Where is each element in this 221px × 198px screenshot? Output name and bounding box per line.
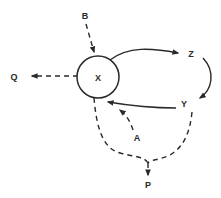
edge-y-to-x <box>108 102 176 108</box>
edge-a-to-x <box>120 110 133 130</box>
node-b-label: B <box>82 11 89 21</box>
node-z-label: Z <box>188 49 194 59</box>
node-q-label: Q <box>10 72 17 82</box>
node-p-label: P <box>145 180 151 190</box>
edge-x-to-z <box>110 49 178 60</box>
flow-diagram: X B Q Z Y A P <box>0 0 221 198</box>
edge-x-to-junction <box>94 98 148 163</box>
edge-b-to-x <box>86 24 94 52</box>
edge-y-to-junction <box>148 112 192 163</box>
node-y-label: Y <box>181 99 187 109</box>
node-a-label: A <box>134 133 141 143</box>
edge-z-to-y <box>200 58 211 98</box>
node-x-label: X <box>95 73 101 83</box>
